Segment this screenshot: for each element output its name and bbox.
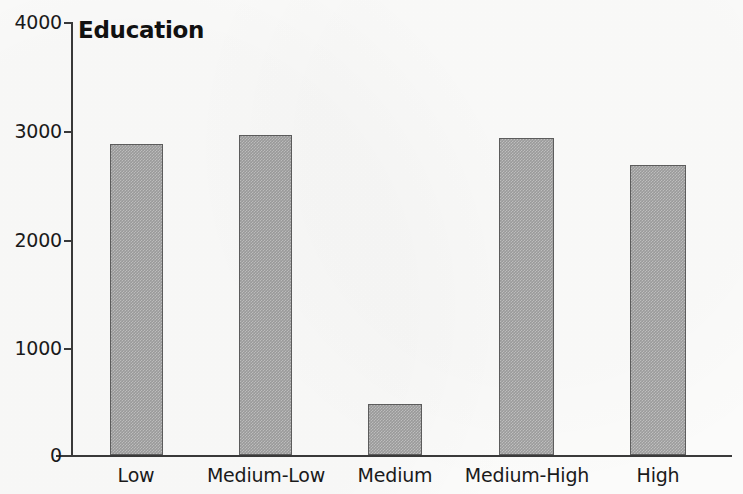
y-tick-label-4000: 4000 [14,11,62,33]
bar-high[interactable] [630,165,686,455]
chart-page: Education 4000 3000 2000 1000 0 [0,0,743,494]
y-tick-label-0-wrap: 0 [0,444,62,466]
y-tick-mark-4000 [64,22,73,24]
y-tick-label-2000-wrap: 2000 [0,229,62,251]
y-tick-label-3000-wrap: 3000 [0,120,62,142]
y-tick-mark-2000 [64,240,73,242]
bar-low[interactable] [110,144,163,455]
y-tick-label-0: 0 [50,444,62,466]
y-tick-mark-0 [64,455,73,457]
x-label-medium: Medium [339,464,451,486]
bar-medium[interactable] [368,404,422,455]
x-label-medium-high: Medium-High [449,464,605,486]
y-tick-label-4000-wrap: 4000 [0,11,62,33]
y-tick-label-3000: 3000 [14,120,62,142]
y-tick-mark-3000 [64,131,73,133]
y-tick-label-1000-wrap: 1000 [0,337,62,359]
bar-medium-low[interactable] [239,135,292,455]
bar-medium-high[interactable] [499,138,554,455]
x-label-high: High [608,464,708,486]
y-tick-label-2000: 2000 [14,229,62,251]
y-tick-mark-1000 [64,348,73,350]
y-axis-line [71,22,73,456]
y-tick-label-1000: 1000 [14,337,62,359]
x-label-low: Low [86,464,186,486]
chart-title: Education [78,17,204,43]
x-label-medium-low: Medium-Low [190,464,342,486]
bar-chart-plot-area: Education 4000 3000 2000 1000 0 [0,0,743,494]
x-axis-line [56,455,732,457]
